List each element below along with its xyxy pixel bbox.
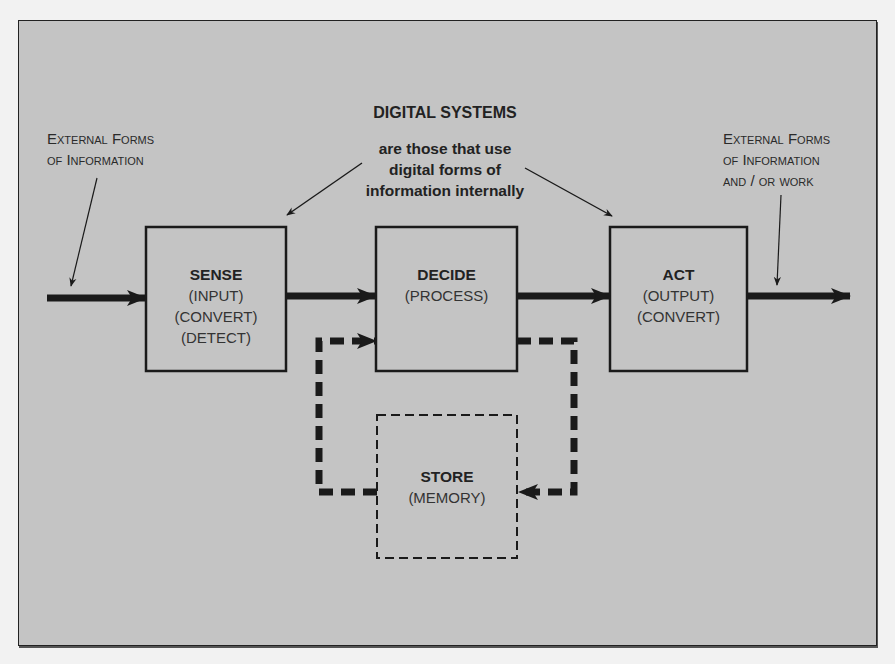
subtitle-line-3: information internally bbox=[330, 180, 560, 201]
subtitle-line-2: digital forms of bbox=[330, 159, 560, 180]
sense-line-2: (CONVERT) bbox=[146, 306, 286, 327]
act-label: ACT (OUTPUT) (CONVERT) bbox=[610, 264, 747, 327]
left-note-line-1: External Forms bbox=[47, 128, 154, 149]
diagram-lines bbox=[0, 0, 895, 664]
left-note-pointer bbox=[71, 178, 97, 286]
sense-line-1: (INPUT) bbox=[146, 285, 286, 306]
right-note-pointer bbox=[777, 195, 781, 285]
decide-to-store-dashed-arrow bbox=[517, 341, 574, 492]
store-label: STORE (MEMORY) bbox=[377, 466, 517, 508]
right-note-line-3: and / or work bbox=[723, 170, 830, 191]
act-line-2: (CONVERT) bbox=[610, 306, 747, 327]
decide-line-1: (PROCESS) bbox=[376, 285, 517, 306]
subtitle-line-1: are those that use bbox=[330, 138, 560, 159]
store-line-1: (MEMORY) bbox=[377, 487, 517, 508]
sense-title: SENSE bbox=[146, 264, 286, 285]
right-external-note: External Forms of Information and / or w… bbox=[723, 128, 830, 191]
act-title: ACT bbox=[610, 264, 747, 285]
left-external-note: External Forms of Information bbox=[47, 128, 154, 170]
right-note-line-1: External Forms bbox=[723, 128, 830, 149]
store-title: STORE bbox=[377, 466, 517, 487]
decide-title: DECIDE bbox=[376, 264, 517, 285]
act-line-1: (OUTPUT) bbox=[610, 285, 747, 306]
sense-line-3: (DETECT) bbox=[146, 327, 286, 348]
store-to-decide-dashed-arrow bbox=[319, 341, 377, 492]
decide-label: DECIDE (PROCESS) bbox=[376, 264, 517, 306]
left-note-line-2: of Information bbox=[47, 149, 154, 170]
sense-label: SENSE (INPUT) (CONVERT) (DETECT) bbox=[146, 264, 286, 348]
right-note-line-2: of Information bbox=[723, 149, 830, 170]
diagram-subtitle: are those that use digital forms of info… bbox=[330, 138, 560, 201]
diagram-title: DIGITAL SYSTEMS bbox=[330, 104, 560, 122]
